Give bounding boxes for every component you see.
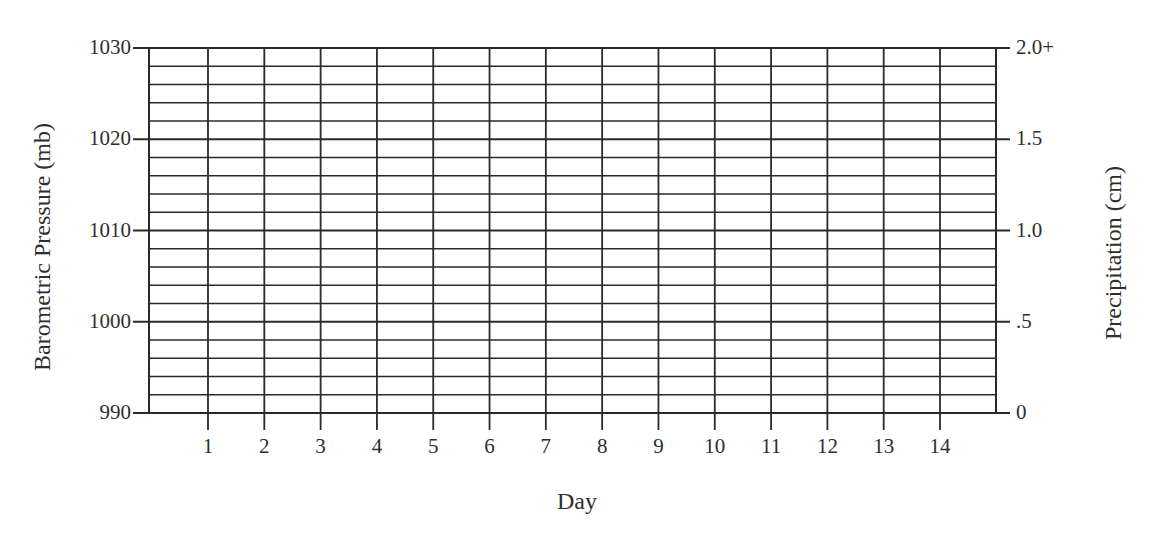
x-tick-label: 1 xyxy=(203,436,214,457)
x-tick-label: 11 xyxy=(761,436,781,457)
x-tick-label: 8 xyxy=(597,436,608,457)
y-tick-label-right: 1.0 xyxy=(1016,220,1042,241)
x-tick-label: 9 xyxy=(653,436,664,457)
x-tick-label: 2 xyxy=(259,436,270,457)
y-tick-label-right: 1.5 xyxy=(1016,128,1042,149)
x-tick-label: 14 xyxy=(930,436,951,457)
x-tick-label: 5 xyxy=(428,436,439,457)
x-tick-label: 7 xyxy=(541,436,552,457)
y-tick-label-left: 990 xyxy=(100,402,132,423)
y-tick-label-left: 1010 xyxy=(89,220,131,241)
chart-grid xyxy=(0,0,1150,551)
y-axis-right-label: Precipitation (cm) xyxy=(1100,166,1127,340)
y-tick-label-left: 1000 xyxy=(89,311,131,332)
x-tick-label: 3 xyxy=(315,436,326,457)
y-tick-label-left: 1020 xyxy=(89,128,131,149)
x-tick-label: 12 xyxy=(817,436,838,457)
y-tick-label-right: .5 xyxy=(1016,311,1032,332)
y-axis-left-label: Barometric Pressure (mb) xyxy=(29,123,56,371)
x-tick-label: 10 xyxy=(704,436,725,457)
x-axis-label: Day xyxy=(557,488,597,515)
x-tick-label: 4 xyxy=(372,436,383,457)
y-tick-label-right: 2.0+ xyxy=(1016,37,1054,58)
x-tick-label: 13 xyxy=(873,436,894,457)
x-tick-label: 6 xyxy=(484,436,495,457)
y-tick-label-right: 0 xyxy=(1016,402,1027,423)
y-tick-label-left: 1030 xyxy=(89,37,131,58)
